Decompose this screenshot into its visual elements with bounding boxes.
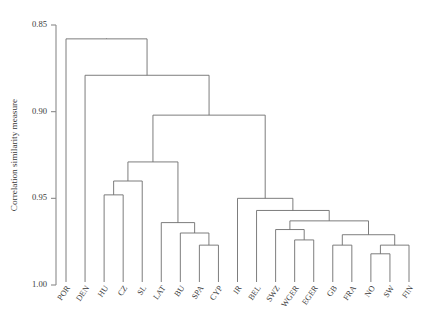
leaf-label: FRA [341, 284, 358, 302]
dendrogram-link [104, 195, 123, 272]
dendrogram-link [295, 240, 314, 272]
leaf-label: WGER [280, 284, 302, 309]
leaf-label: CZ [116, 284, 129, 298]
dendrogram-canvas: 0.850.900.951.00Correlation similarity m… [0, 0, 430, 331]
dendrogram-plot: 0.850.900.951.00Correlation similarity m… [0, 0, 430, 331]
dendrogram-link [276, 230, 305, 272]
leaf-label: POR [56, 284, 73, 303]
leaf-label: BU [173, 284, 187, 299]
dendrogram-link [257, 210, 330, 272]
y-axis-tick-label: 0.90 [32, 106, 47, 116]
dendrogram-link [238, 198, 293, 272]
dendrogram-link [342, 235, 394, 245]
leaf-label: SPA [190, 284, 206, 301]
leaf-label: GB [325, 284, 339, 299]
leaf-label: NO [363, 284, 377, 299]
dendrogram-link [371, 254, 390, 272]
y-axis-tick-label: 0.85 [32, 19, 47, 29]
leaf-label: SWZ [264, 284, 281, 303]
leaf-label: IR [232, 284, 244, 296]
leaf-label: SL [136, 284, 149, 297]
dendrogram-link [161, 223, 194, 272]
y-axis-tick-label: 0.95 [32, 192, 47, 202]
dendrogram-link [66, 39, 147, 272]
dendrogram-link [333, 245, 352, 272]
leaf-label: FIN [400, 284, 415, 300]
leaf-label: HU [96, 284, 110, 299]
dendrogram-link [199, 245, 218, 272]
dendrogram-link [153, 115, 265, 198]
dendrogram-link [290, 221, 369, 235]
leaf-label: DEN [74, 284, 91, 303]
leaf-label: BEL [246, 284, 262, 302]
y-axis-title: Correlation similarity measure [9, 99, 19, 211]
y-axis-tick-label: 1.00 [32, 279, 47, 289]
leaf-label: CYP [208, 284, 225, 303]
leaf-label: LAT [151, 284, 167, 301]
dendrogram-link [180, 233, 209, 272]
leaf-label: EGER [300, 284, 320, 307]
dendrogram-link [85, 75, 209, 272]
dendrogram-link [380, 245, 409, 272]
leaf-label: SW [382, 284, 397, 299]
dendrogram-link [128, 162, 178, 223]
